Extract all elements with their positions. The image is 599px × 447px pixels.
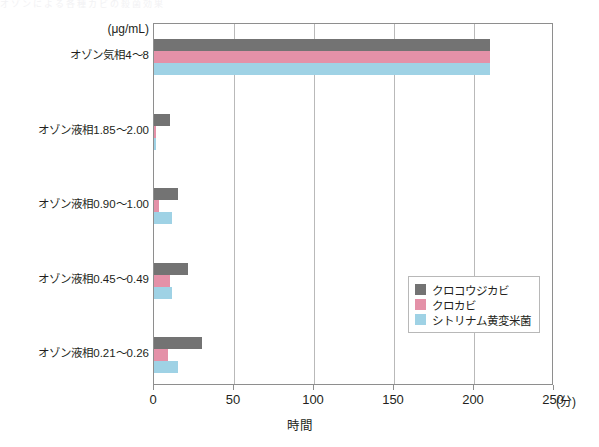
bar-group (154, 337, 554, 373)
legend-label: クロカビ (432, 297, 476, 313)
x-axis-unit-label: (分) (556, 392, 576, 409)
legend-label: シトリナム黄変米菌 (432, 312, 531, 328)
bar (154, 126, 156, 138)
legend-item: シトリナム黄変米菌 (415, 312, 531, 327)
bar (154, 349, 168, 361)
y-axis-unit-label: (μg/mL) (0, 22, 149, 36)
x-tick-label: 200 (462, 392, 484, 407)
x-tick-label: 150 (382, 392, 404, 407)
bar-chart: オゾンによる各種カビの殺菌効果 (μg/mL) オゾン気相4〜8オゾン液相1.8… (0, 0, 599, 447)
x-tick-0 (153, 385, 154, 390)
bar-group (154, 39, 554, 75)
x-tick-100 (313, 385, 314, 390)
category-label: オゾン液相0.21〜0.26 (0, 347, 149, 360)
x-axis-title: 時間 (0, 415, 599, 434)
bar (154, 188, 178, 200)
bar (154, 51, 490, 63)
legend-item: クロカビ (415, 297, 531, 312)
legend-swatch-icon (415, 284, 426, 295)
category-label: オゾン液相1.85〜2.00 (0, 124, 149, 137)
bar (154, 39, 490, 51)
bar (154, 263, 188, 275)
x-tick-label: 100 (302, 392, 324, 407)
x-tick-250 (553, 385, 554, 390)
legend: クロコウジカビクロカビシトリナム黄変米菌 (408, 276, 540, 333)
legend-swatch-icon (415, 299, 426, 310)
bar (154, 63, 490, 75)
bar (154, 361, 178, 373)
bar-group (154, 188, 554, 224)
bar (154, 212, 172, 224)
bar (154, 114, 170, 126)
bar (154, 287, 172, 299)
bar (154, 138, 156, 150)
legend-item: クロコウジカビ (415, 282, 531, 297)
cropped-header-text: オゾンによる各種カビの殺菌効果 (0, 0, 599, 8)
bar-group (154, 114, 554, 150)
bar (154, 275, 170, 287)
legend-label: クロコウジカビ (432, 282, 509, 298)
category-label: オゾン液相0.90〜1.00 (0, 198, 149, 211)
x-tick-50 (233, 385, 234, 390)
bar (154, 200, 159, 212)
legend-swatch-icon (415, 314, 426, 325)
x-tick-200 (473, 385, 474, 390)
category-label: オゾン気相4〜8 (0, 49, 149, 62)
x-tick-label: 0 (149, 392, 156, 407)
x-tick-label: 50 (226, 392, 240, 407)
category-label: オゾン液相0.45〜0.49 (0, 273, 149, 286)
bar (154, 337, 202, 349)
x-tick-150 (393, 385, 394, 390)
